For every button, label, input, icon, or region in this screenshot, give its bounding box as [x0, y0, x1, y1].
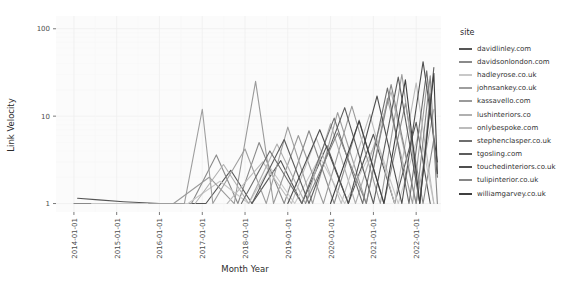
- legend-item[interactable]: stephenclasper.co.uk: [459, 134, 561, 147]
- legend-color-swatch: [459, 48, 472, 50]
- x-tick-label: 2020-01-01: [328, 218, 336, 259]
- y-tick-label: 100: [37, 25, 50, 33]
- legend-item-label: touchedinteriors.co.uk: [477, 163, 556, 171]
- legend-item[interactable]: tulipinterior.co.uk: [459, 174, 561, 187]
- chart-container: 1101002014-01-012015-01-012016-01-012017…: [0, 0, 561, 282]
- legend-color-swatch: [459, 100, 472, 102]
- x-axis-title: Month Year: [221, 264, 269, 274]
- legend-color-swatch: [459, 74, 472, 76]
- legend-color-swatch: [459, 114, 472, 116]
- legend-item-label: johnsankey.co.uk: [477, 84, 537, 92]
- legend-item[interactable]: lushinteriors.co: [459, 108, 561, 121]
- legend-item-label: hadleyrose.co.uk: [477, 71, 536, 79]
- legend-color-swatch: [459, 87, 472, 89]
- legend-item-label: williamgarvey.co.uk: [477, 190, 546, 198]
- legend-color-swatch: [459, 127, 472, 129]
- legend-item[interactable]: davidlinley.com: [459, 42, 561, 55]
- legend-title: site: [460, 28, 561, 37]
- legend-item-label: lushinteriors.co: [477, 111, 531, 119]
- legend-item-label: onlybespoke.com: [477, 124, 538, 132]
- legend-item-label: tgosling.com: [477, 150, 522, 158]
- y-tick-label: 1: [46, 200, 50, 208]
- x-tick-label: 2017-01-01: [199, 218, 207, 259]
- legend: site davidlinley.comdavidsonlondon.comha…: [459, 28, 561, 200]
- x-tick-label: 2021-01-01: [370, 218, 378, 259]
- y-tick-label: 10: [41, 113, 50, 121]
- legend-item[interactable]: davidsonlondon.com: [459, 55, 561, 68]
- x-tick-label: 2018-01-01: [242, 218, 250, 259]
- legend-item-label: davidsonlondon.com: [477, 58, 550, 66]
- legend-color-swatch: [459, 193, 472, 195]
- x-tick-label: 2014-01-01: [71, 218, 79, 259]
- legend-item-label: kassavello.com: [477, 97, 530, 105]
- x-tick-label: 2016-01-01: [156, 218, 164, 259]
- x-tick-label: 2022-01-01: [413, 218, 421, 259]
- x-tick-label: 2019-01-01: [285, 218, 293, 259]
- x-tick-label: 2015-01-01: [114, 218, 122, 259]
- legend-items-list: davidlinley.comdavidsonlondon.comhadleyr…: [459, 42, 561, 200]
- legend-item[interactable]: onlybespoke.com: [459, 121, 561, 134]
- legend-color-swatch: [459, 153, 472, 155]
- legend-color-swatch: [459, 61, 472, 63]
- legend-item-label: stephenclasper.co.uk: [477, 137, 551, 145]
- legend-color-swatch: [459, 166, 472, 168]
- legend-item[interactable]: hadleyrose.co.uk: [459, 68, 561, 81]
- plot-panel-background: [56, 16, 441, 212]
- y-axis-title: Link Velocity: [6, 98, 16, 151]
- legend-item[interactable]: johnsankey.co.uk: [459, 82, 561, 95]
- legend-color-swatch: [459, 179, 472, 181]
- legend-item[interactable]: williamgarvey.co.uk: [459, 187, 561, 200]
- legend-item-label: tulipinterior.co.uk: [477, 176, 538, 184]
- legend-item[interactable]: tgosling.com: [459, 148, 561, 161]
- legend-item[interactable]: kassavello.com: [459, 95, 561, 108]
- legend-item-label: davidlinley.com: [477, 45, 531, 53]
- legend-item[interactable]: touchedinteriors.co.uk: [459, 161, 561, 174]
- legend-color-swatch: [459, 140, 472, 142]
